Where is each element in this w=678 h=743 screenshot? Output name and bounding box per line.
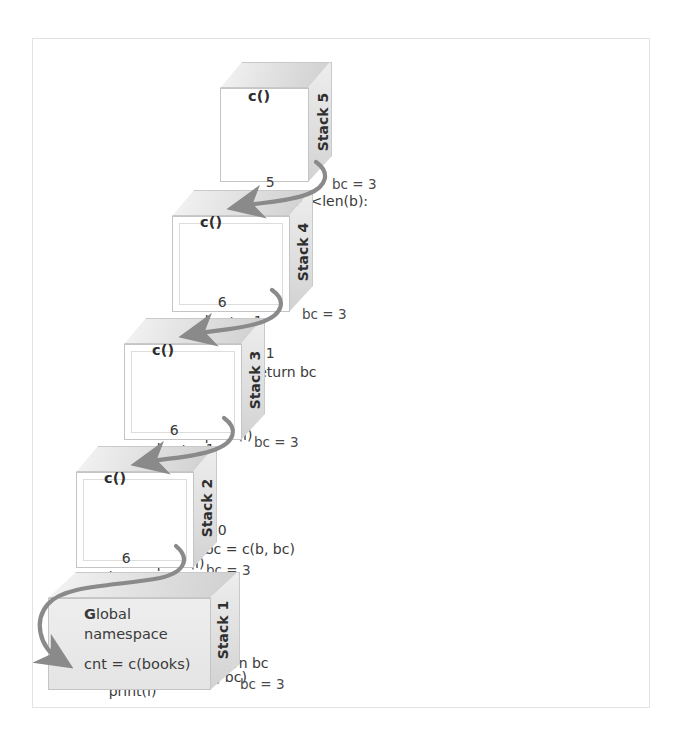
- stack-frame-5-content: c() 5 while bc<len(b): 11 return bc: [222, 82, 340, 174]
- line-number: 6: [205, 293, 227, 312]
- bc-value-label-1: bc = 3: [240, 676, 284, 692]
- stack-label-2: Stack 2: [199, 477, 215, 539]
- function-name-5: c(): [248, 88, 270, 104]
- stack-frame-1-content: Global namespace cnt = c(books): [48, 598, 211, 690]
- cube-top-face-1: [48, 572, 238, 598]
- global-call-statement: cnt = c(books): [84, 656, 190, 672]
- line-number: 6: [157, 421, 179, 440]
- line-number: 6: [109, 549, 131, 568]
- stack-label-1: Stack 1: [215, 599, 231, 661]
- bc-value-label-3: bc = 3: [254, 434, 298, 450]
- global-title-rest: lobal: [96, 606, 131, 622]
- stack-label-4: Stack 4: [295, 221, 311, 283]
- function-name-2: c(): [104, 470, 126, 486]
- global-title-line2: namespace: [84, 626, 168, 642]
- global-namespace-title: Global namespace: [84, 604, 168, 644]
- function-name-4: c(): [200, 214, 222, 230]
- stack-frame-3-content: c() 6 bc += 1 8 print(i) 10 bc = c(b, bc…: [130, 340, 248, 436]
- stack-label-3: Stack 3: [247, 349, 263, 411]
- global-title-initial: G: [84, 606, 96, 622]
- bc-value-label-5: bc = 3: [332, 176, 376, 192]
- stack-frame-4-content: c() 6 bc += 1 8 print(i) 10 bc = c(b, bc…: [178, 212, 296, 308]
- bc-value-label-4: bc = 3: [302, 306, 346, 322]
- function-name-3: c(): [152, 342, 174, 358]
- stack-frame-2-content: c() 6 bc += 1 8 print(i) 10 bc = c(b, bc…: [82, 468, 200, 564]
